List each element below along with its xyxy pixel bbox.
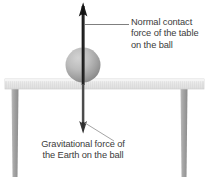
table-leg-left [12, 88, 19, 177]
gravitational-force-label: Gravitational force of the Earth on the … [13, 139, 153, 162]
normal-force-line-1: Normal contact [131, 17, 198, 28]
gravity-force-line-1: Gravitational force of [13, 139, 153, 150]
normal-force-line-3: on the ball [131, 40, 198, 51]
normal-contact-force-label: Normal contact force of the table on the… [131, 17, 198, 51]
normal-force-line-2: force of the table [131, 28, 198, 39]
table-top-edge-highlight [5, 79, 204, 81]
gravity-force-line-2: the Earth on the ball [13, 150, 153, 161]
physics-force-diagram: Normal contact force of the table on the… [0, 0, 209, 185]
normal-force-arrow-shaft [82, 6, 85, 85]
table-leg-right [181, 88, 188, 177]
gravity-force-arrow-shaft [82, 84, 85, 128]
